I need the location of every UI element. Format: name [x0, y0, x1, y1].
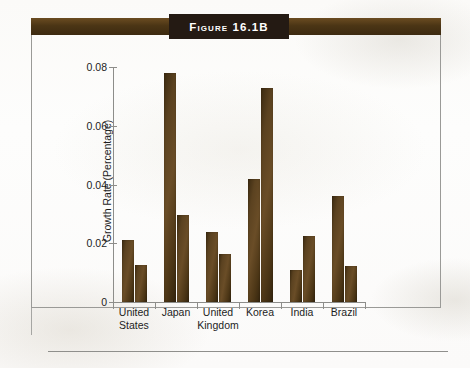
y-axis-tick-label: 0.04: [87, 179, 107, 191]
bar: [122, 240, 134, 302]
x-axis-category-label: Japan: [162, 306, 191, 319]
bar-group: [290, 60, 315, 302]
bar: [290, 270, 302, 302]
bar-group: [248, 60, 273, 302]
bar-group: [332, 60, 357, 302]
y-axis-tick: [109, 185, 117, 186]
y-axis-tick: [109, 243, 117, 244]
x-axis-category-label: Brazil: [331, 306, 357, 319]
x-axis-tick: [365, 302, 366, 309]
x-axis-category-label: India: [291, 306, 314, 319]
bar: [206, 232, 218, 302]
y-axis-tick-label: 0: [101, 296, 107, 308]
bar: [135, 265, 147, 302]
bar: [332, 196, 344, 302]
bar: [177, 215, 189, 302]
y-axis-tick: [109, 126, 117, 127]
bar: [248, 179, 260, 302]
bar-group: [122, 60, 147, 302]
figure-label-text: Figure 16.1B: [189, 21, 268, 33]
bar: [345, 266, 357, 302]
y-axis-tick-label: 0.06: [87, 120, 107, 132]
x-axis-label-group: UnitedStatesJapanUnitedKingdomKoreaIndia…: [113, 306, 365, 340]
x-axis-category-label: Korea: [246, 306, 274, 319]
bar: [303, 236, 315, 302]
bar-group: [164, 60, 189, 302]
y-axis-tick-label: 0.02: [87, 237, 107, 249]
plot-area: 00.020.040.060.08: [113, 60, 365, 302]
bar: [261, 88, 273, 302]
bar: [164, 73, 176, 302]
x-axis-category-label: UnitedKingdom: [197, 306, 238, 331]
bar: [219, 254, 231, 302]
y-axis-tick-label: 0.08: [87, 61, 107, 73]
bar-group: [206, 60, 231, 302]
x-axis-category-label: UnitedStates: [119, 306, 149, 331]
y-axis-tick: [109, 67, 117, 68]
bottom-rule: [48, 351, 448, 352]
